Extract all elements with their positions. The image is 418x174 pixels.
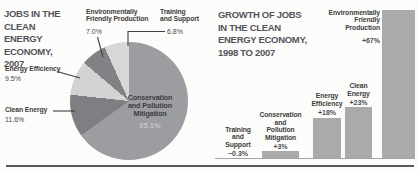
bar-label-clean-energy: Clean Energy +23%	[335, 82, 382, 106]
pie: Conservation and Pollution Mitigation 65…	[70, 42, 188, 160]
bar-chart-baseline	[215, 158, 415, 159]
bar-label-conservation: Conservation and Pollution Mitigation +3…	[257, 111, 304, 150]
bar	[313, 118, 341, 158]
pie-slice-label-text: Conservation and Pollution Mitigation	[114, 94, 186, 117]
bar-label-text: Clean Energy	[335, 82, 382, 97]
callout-value: 9.5%	[5, 75, 67, 82]
pie-slice-value: 65.1%	[114, 121, 186, 130]
callout-training-support: Training and Support 6.8%	[160, 8, 208, 35]
callout-value: 7.0%	[86, 28, 156, 35]
callout-label: Clean Energy	[5, 106, 67, 113]
bar-label-text: Training and Support	[214, 126, 262, 148]
bar-chart-panel: GROWTH OF JOBS IN THE CLEAN ENERGY ECONO…	[209, 0, 418, 174]
bar	[262, 151, 299, 158]
callout-value: 11.6%	[5, 116, 67, 123]
bar-chart-title: GROWTH OF JOBS IN THE CLEAN ENERGY ECONO…	[218, 9, 308, 59]
pie-slice-label-conservation: Conservation and Pollution Mitigation 65…	[114, 94, 186, 130]
callout-label: Training and Support	[160, 8, 208, 23]
callout-clean-energy: Clean Energy 11.6%	[5, 106, 67, 123]
bar-label-text: Environmentally Friendly Production	[310, 9, 380, 31]
bar-value: +67%	[310, 37, 380, 44]
bar-value: −0.3%	[214, 150, 262, 157]
bar-label-text: Conservation and Pollution Mitigation	[257, 111, 304, 141]
pie-chart-title: JOBS IN THE CLEAN ENERGY ECONOMY, 2007	[4, 8, 74, 71]
bottom-rule	[6, 165, 414, 167]
callout-value: 6.8%	[160, 28, 208, 35]
bar-label-training-support: Training and Support −0.3%	[214, 126, 262, 157]
bar-value: +18%	[303, 109, 351, 116]
clean-energy-infographic: JOBS IN THE CLEAN ENERGY ECONOMY, 2007 C…	[0, 0, 418, 174]
callout-energy-efficiency: Energy Efficiency 9.5%	[5, 65, 67, 82]
callout-label: Environmentally Friendly Production	[86, 8, 156, 23]
bar-value: +3%	[257, 143, 304, 150]
callout-label: Energy Efficiency	[5, 65, 67, 72]
pie-chart-panel: JOBS IN THE CLEAN ENERGY ECONOMY, 2007 C…	[0, 0, 209, 174]
bar-label-env-friendly-production: Environmentally Friendly Production +67%	[310, 9, 380, 44]
bar-value: +23%	[335, 99, 382, 106]
callout-env-friendly-production: Environmentally Friendly Production 7.0%	[86, 8, 156, 35]
bar	[382, 10, 415, 158]
